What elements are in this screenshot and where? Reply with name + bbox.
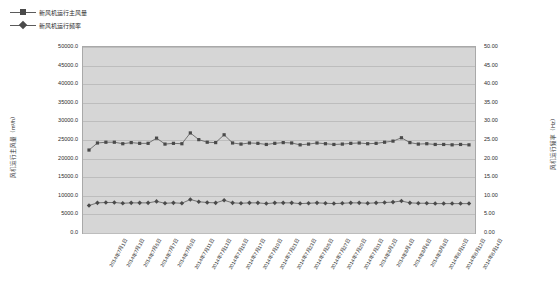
y-tick-right: 5.00 <box>484 210 495 216</box>
data-point <box>248 141 251 144</box>
data-point <box>273 142 276 145</box>
data-point <box>239 142 242 145</box>
data-point <box>290 141 293 144</box>
data-point <box>146 201 151 206</box>
y-tick-right: 20.00 <box>484 155 498 161</box>
data-point <box>358 141 361 144</box>
data-point <box>324 142 327 145</box>
y-tick-left: 0.0 <box>70 229 78 235</box>
data-point <box>129 201 134 206</box>
data-point <box>391 200 396 205</box>
data-point <box>188 197 193 202</box>
data-point <box>451 143 454 146</box>
data-point <box>357 201 362 206</box>
data-point <box>171 201 176 206</box>
data-point <box>112 200 117 205</box>
data-point <box>416 201 421 206</box>
data-point <box>289 201 294 206</box>
data-point <box>408 141 411 144</box>
data-point <box>264 201 269 206</box>
data-point <box>104 141 107 144</box>
data-point <box>306 201 311 206</box>
data-point <box>239 201 244 206</box>
chart-root: 新风机运行主风量 新风机运行频率 风机运行主风量（m³/h） 风机运行频率（Hz… <box>0 0 558 282</box>
gridline <box>83 233 475 234</box>
data-point <box>323 201 328 206</box>
data-point <box>113 141 116 144</box>
data-point <box>87 148 90 151</box>
y-tick-left: 5000.0 <box>61 210 78 216</box>
y-tick-right: 50.00 <box>484 43 498 49</box>
data-point <box>375 142 378 145</box>
data-point <box>231 141 234 144</box>
y-tick-left: 25000.0 <box>58 136 78 142</box>
data-point <box>459 143 462 146</box>
y-tick-right: 25.00 <box>484 136 498 142</box>
y-axis-left-ticks: 50000.045000.040000.035000.030000.025000… <box>22 0 78 282</box>
data-point <box>256 142 259 145</box>
y-tick-right: 10.00 <box>484 192 498 198</box>
y-tick-left: 40000.0 <box>58 80 78 86</box>
data-point <box>256 201 261 206</box>
data-point <box>163 201 168 206</box>
data-point <box>425 201 430 206</box>
y-tick-right: 45.00 <box>484 62 498 68</box>
data-point <box>155 137 158 140</box>
data-point <box>214 141 217 144</box>
data-point <box>467 143 470 146</box>
data-point <box>441 201 446 206</box>
plot-area <box>82 46 476 234</box>
data-point <box>247 201 252 206</box>
data-point <box>104 200 109 205</box>
data-point <box>391 140 394 143</box>
data-point <box>189 131 192 134</box>
data-point <box>341 142 344 145</box>
data-point <box>137 201 142 206</box>
data-point <box>383 141 386 144</box>
y-tick-right: 0.00 <box>484 229 495 235</box>
data-point <box>223 133 226 136</box>
y-tick-right: 30.00 <box>484 117 498 123</box>
y-tick-left: 15000.0 <box>58 173 78 179</box>
data-point <box>315 201 320 206</box>
data-point <box>434 143 437 146</box>
data-point <box>95 201 100 206</box>
data-point <box>180 201 185 206</box>
data-point <box>213 201 218 206</box>
data-point <box>121 142 124 145</box>
y-tick-left: 35000.0 <box>58 99 78 105</box>
y-axis-right-ticks: 50.0045.0040.0035.0030.0025.0020.0015.00… <box>480 0 536 282</box>
data-point <box>138 142 141 145</box>
data-point <box>467 201 472 206</box>
data-point <box>349 201 354 206</box>
y-tick-right: 40.00 <box>484 80 498 86</box>
data-point <box>197 138 200 141</box>
y-tick-left: 10000.0 <box>58 192 78 198</box>
series-line <box>89 200 469 206</box>
data-point <box>96 141 99 144</box>
series-lines <box>83 47 475 233</box>
y-tick-left: 20000.0 <box>58 155 78 161</box>
data-point <box>366 142 369 145</box>
data-point <box>365 201 370 206</box>
data-point <box>442 143 445 146</box>
data-point <box>417 142 420 145</box>
data-point <box>374 201 379 206</box>
series-line <box>89 133 469 150</box>
data-point <box>130 141 133 144</box>
data-point <box>408 201 413 206</box>
data-point <box>307 142 310 145</box>
data-point <box>180 142 183 145</box>
data-point <box>299 143 302 146</box>
data-point <box>121 201 126 206</box>
data-point <box>206 141 209 144</box>
data-point <box>87 203 92 208</box>
data-point <box>147 142 150 145</box>
data-point <box>163 142 166 145</box>
data-point <box>172 142 175 145</box>
data-point <box>458 201 463 206</box>
data-point <box>281 201 286 206</box>
data-point <box>433 201 438 206</box>
data-point <box>400 136 403 139</box>
data-point <box>450 201 455 206</box>
